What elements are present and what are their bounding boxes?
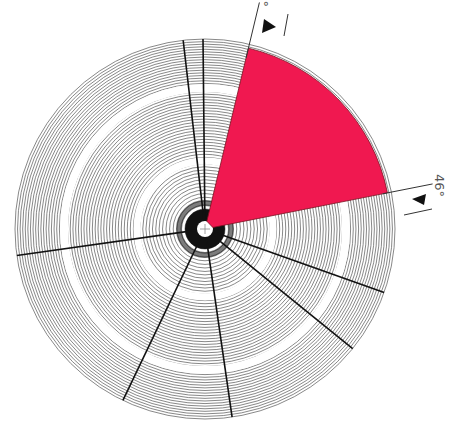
top-angle-label: 8° xyxy=(256,0,271,7)
highlighted-sector xyxy=(207,48,388,227)
right-angle-label: 46° xyxy=(432,174,447,197)
polar-sector-diagram xyxy=(0,0,462,421)
arrow-right-icon xyxy=(262,19,276,33)
arrow-left-icon xyxy=(412,194,426,205)
